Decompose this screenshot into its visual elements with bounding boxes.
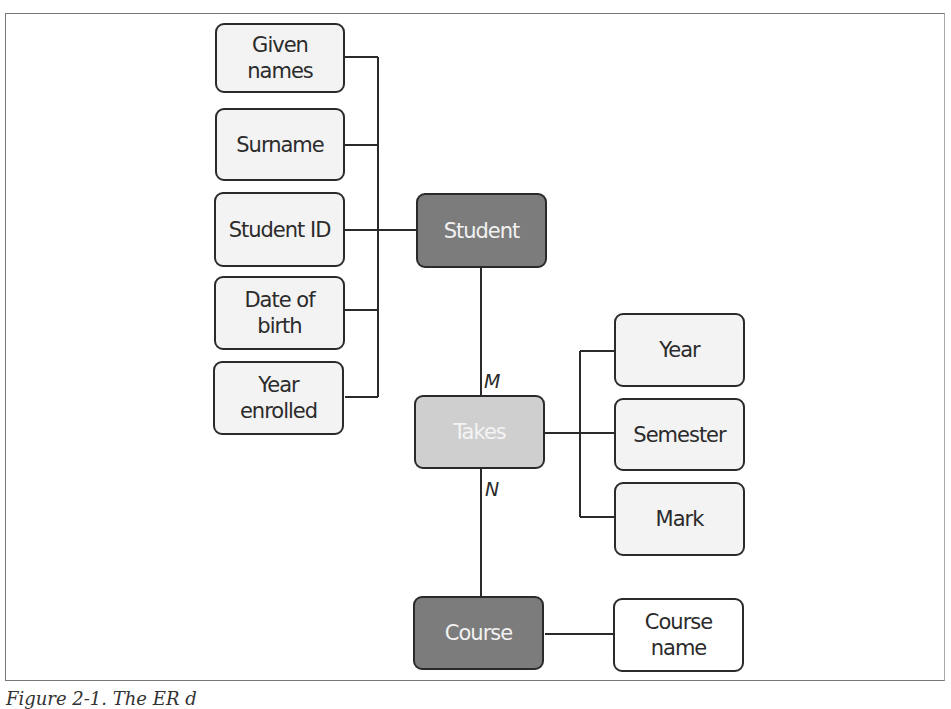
entity-student: Student [416, 193, 547, 268]
figure-caption: Figure 2-1. The ER d [6, 688, 197, 709]
attribute-student-id: Student ID [214, 192, 345, 267]
attribute-semester: Semester [614, 398, 745, 471]
cardinality-m: M [484, 370, 500, 392]
attribute-year-enrolled: Year enrolled [213, 361, 344, 435]
attribute-date-of-birth: Date of birth [214, 276, 345, 350]
cardinality-n: N [485, 478, 499, 500]
attribute-course-name: Course name [613, 598, 744, 672]
attribute-mark: Mark [614, 482, 745, 556]
attribute-given-names: Given names [215, 23, 345, 93]
attribute-year: Year [614, 313, 745, 387]
attribute-surname: Surname [215, 108, 345, 181]
relationship-takes: Takes [414, 395, 545, 469]
entity-course: Course [413, 596, 544, 670]
